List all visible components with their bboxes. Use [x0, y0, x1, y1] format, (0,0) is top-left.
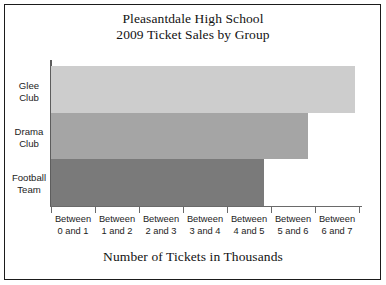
x-axis-tick-4: [227, 206, 228, 213]
x-axis-label-1-line-2: 1 and 2: [94, 226, 140, 238]
x-axis-label-5: Between5 and 6: [270, 214, 316, 237]
x-axis-label-2-line-1: Between: [138, 214, 184, 226]
x-axis-tick-2: [139, 206, 140, 213]
y-axis-label-glee-club-line-1: Glee: [8, 80, 50, 92]
x-axis-label-5-line-1: Between: [270, 214, 316, 226]
x-axis-tick-7: [359, 206, 360, 213]
x-axis-label-0-line-1: Between: [50, 214, 96, 226]
x-axis-label-3: Between3 and 4: [182, 214, 228, 237]
x-axis-tick-0: [51, 206, 52, 213]
x-axis-tick-6: [315, 206, 316, 213]
x-axis-label-3-line-1: Between: [182, 214, 228, 226]
bar-drama-club: [51, 113, 308, 159]
x-axis-label-1-line-1: Between: [94, 214, 140, 226]
y-axis-label-drama-club-line-1: Drama: [8, 126, 50, 138]
chart-title: Pleasantdale High School 2009 Ticket Sal…: [0, 11, 386, 43]
y-axis-label-glee-club: Glee Club: [8, 80, 50, 103]
x-axis-label-4-line-1: Between: [226, 214, 272, 226]
x-axis-label-6-line-2: 6 and 7: [314, 226, 360, 238]
x-axis-label-6-line-1: Between: [314, 214, 360, 226]
chart-title-line-1: Pleasantdale High School: [122, 11, 263, 26]
x-axis-label-4: Between4 and 5: [226, 214, 272, 237]
x-axis-label-2: Between2 and 3: [138, 214, 184, 237]
x-axis-label-4-line-2: 4 and 5: [226, 226, 272, 238]
plot-area: [51, 66, 359, 206]
x-axis-label-1: Between1 and 2: [94, 214, 140, 237]
y-axis-label-drama-club: Drama Club: [8, 126, 50, 149]
x-axis-label-0: Between0 and 1: [50, 214, 96, 237]
x-axis-label-0-line-2: 0 and 1: [50, 226, 96, 238]
y-axis-label-glee-club-line-2: Club: [8, 92, 50, 104]
y-axis-label-drama-club-line-2: Club: [8, 138, 50, 150]
y-axis-label-football-team-line-1: Football: [8, 172, 50, 184]
bar-glee-club: [51, 66, 355, 113]
chart-title-line-2: 2009 Ticket Sales by Group: [0, 27, 386, 43]
x-axis-tick-1: [95, 206, 96, 213]
x-axis-label-2-line-2: 2 and 3: [138, 226, 184, 238]
x-axis-label-5-line-2: 5 and 6: [270, 226, 316, 238]
x-axis-label-6: Between6 and 7: [314, 214, 360, 237]
bar-football-team: [51, 159, 264, 206]
x-axis-title: Number of Tickets in Thousands: [0, 249, 386, 265]
y-axis-label-football-team-line-2: Team: [8, 184, 50, 196]
x-axis-label-3-line-2: 3 and 4: [182, 226, 228, 238]
x-axis-tick-3: [183, 206, 184, 213]
y-axis-label-football-team: Football Team: [8, 172, 50, 195]
chart-page: Pleasantdale High School 2009 Ticket Sal…: [0, 0, 386, 285]
x-axis-tick-5: [271, 206, 272, 213]
